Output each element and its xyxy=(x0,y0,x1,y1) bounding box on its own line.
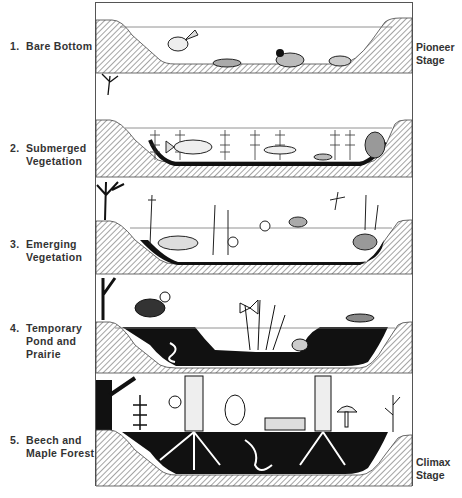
stage-name: Submerged xyxy=(26,142,86,154)
frog-icon xyxy=(289,217,307,227)
dragonfly-icon xyxy=(330,192,345,210)
tree-icon xyxy=(96,380,112,432)
stage-label-2: 2.Submerged Vegetation xyxy=(10,142,86,168)
butterfly-icon xyxy=(240,300,258,314)
pioneer-line1: Pioneer xyxy=(416,41,455,54)
fish-icon xyxy=(158,236,198,250)
snail-icon xyxy=(314,154,332,160)
stage-label-1: 1.Bare Bottom xyxy=(10,40,92,53)
mushroom-icon xyxy=(337,406,357,427)
climax-line2: Stage xyxy=(416,469,450,482)
panel-temporary-pond-prairie xyxy=(96,278,412,373)
stage-name-line3: Prairie xyxy=(10,348,82,361)
water-lily-icon xyxy=(260,221,270,231)
pioneer-line2: Stage xyxy=(416,54,455,67)
panel-submerged-vegetation xyxy=(96,74,412,177)
turtle-icon xyxy=(353,234,377,250)
sapling-icon xyxy=(102,74,118,95)
turtle-icon xyxy=(365,132,385,158)
snail-icon xyxy=(228,237,238,247)
stage-name-line2: Pond and xyxy=(10,335,82,348)
stage-name: Emerging xyxy=(26,238,77,250)
fish-icon xyxy=(166,140,212,154)
stage-label-3: 3.Emerging Vegetation xyxy=(10,238,82,264)
tree-icon xyxy=(103,278,115,320)
stage-name-line2: Maple Forest xyxy=(10,447,94,460)
meadowlark-icon xyxy=(135,292,170,317)
tree-icon xyxy=(97,182,124,220)
grasshopper-icon xyxy=(346,314,374,322)
log-icon xyxy=(265,418,305,430)
stage-label-5: 5.Beech and Maple Forest xyxy=(10,434,94,460)
climax-stage-label: Climax Stage xyxy=(416,456,450,482)
sapling-icon xyxy=(385,395,400,432)
panel-emerging-vegetation xyxy=(96,182,412,274)
panel-bare-bottom xyxy=(96,18,412,73)
squirrel-icon xyxy=(225,395,245,425)
fish-icon xyxy=(168,30,198,51)
stage-label-4: 4.Temporary Pond and Prairie xyxy=(10,322,82,361)
panel-beech-maple-forest xyxy=(96,376,412,486)
snail-icon xyxy=(169,396,181,408)
toad-icon xyxy=(292,339,308,351)
climax-line1: Climax xyxy=(416,456,450,469)
mussel-icon xyxy=(329,56,351,66)
stage-name: Temporary xyxy=(26,322,82,334)
fern-icon xyxy=(133,395,147,430)
stage-name: Beech and xyxy=(26,434,82,446)
stage-number: 2. xyxy=(10,142,26,155)
stage-number: 3. xyxy=(10,238,26,251)
stage-number: 5. xyxy=(10,434,26,447)
stage-number: 4. xyxy=(10,322,26,335)
stage-name: Bare Bottom xyxy=(26,40,92,52)
crayfish-icon xyxy=(276,49,304,67)
pioneer-stage-label: Pioneer Stage xyxy=(416,41,455,67)
caddisfly-larva-icon xyxy=(213,59,241,67)
fish-icon xyxy=(264,146,296,154)
stage-number: 1. xyxy=(10,40,26,53)
stage-name-line2: Vegetation xyxy=(10,251,82,264)
stage-name-line2: Vegetation xyxy=(10,155,86,168)
